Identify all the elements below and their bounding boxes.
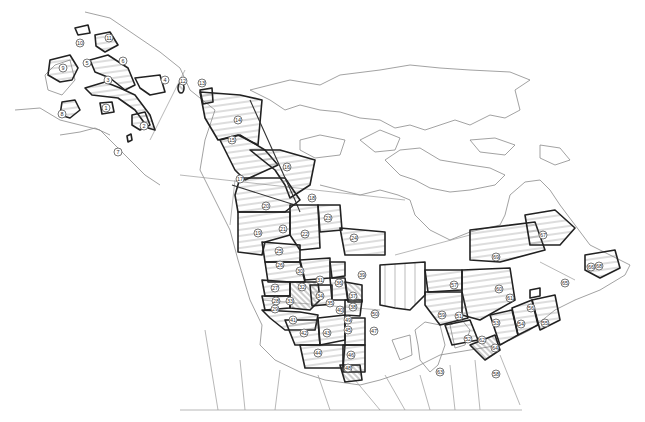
label-66: 66 [587, 263, 595, 271]
label-49: 49 [344, 316, 352, 324]
label-45: 45 [344, 326, 352, 334]
label-34: 34 [316, 292, 324, 300]
label-29: 29 [271, 305, 279, 313]
svg-text:34: 34 [317, 293, 323, 299]
svg-text:27: 27 [272, 285, 278, 291]
label-57: 57 [450, 281, 458, 289]
label-16: 16 [283, 163, 291, 171]
label-58: 58 [492, 370, 500, 378]
svg-text:39: 39 [359, 272, 365, 278]
svg-text:28: 28 [273, 298, 279, 304]
label-18: 18 [308, 194, 316, 202]
svg-text:53: 53 [493, 320, 499, 326]
label-7: 7 [114, 148, 122, 156]
label-38: 38 [349, 303, 357, 311]
label-67: 67 [539, 231, 547, 239]
svg-text:57: 57 [451, 282, 457, 288]
label-14: 14 [234, 116, 242, 124]
label-17: 17 [236, 175, 244, 183]
svg-text:38: 38 [350, 304, 356, 310]
label-40: 40 [336, 306, 344, 314]
svg-text:68: 68 [596, 263, 602, 269]
label-35: 35 [326, 299, 334, 307]
label-56: 56 [527, 304, 535, 312]
label-46: 46 [347, 351, 355, 359]
svg-text:18: 18 [309, 195, 315, 201]
svg-text:7: 7 [116, 149, 119, 155]
svg-text:9: 9 [61, 65, 64, 71]
label-1: 1 [102, 104, 110, 112]
label-24: 24 [350, 234, 358, 242]
svg-text:22: 22 [302, 231, 308, 237]
svg-text:64: 64 [492, 345, 498, 351]
svg-text:25: 25 [276, 248, 282, 254]
label-52: 52 [464, 335, 472, 343]
svg-text:11: 11 [106, 35, 112, 41]
label-62: 62 [478, 336, 486, 344]
svg-text:13: 13 [199, 80, 205, 86]
svg-text:60: 60 [496, 286, 502, 292]
svg-text:67: 67 [540, 232, 546, 238]
label-28: 28 [272, 297, 280, 305]
label-53: 53 [492, 319, 500, 327]
label-50: 50 [371, 310, 379, 318]
label-10: 10 [76, 39, 84, 47]
label-37: 37 [349, 292, 357, 300]
svg-text:16: 16 [284, 164, 290, 170]
label-15: 15 [228, 136, 236, 144]
svg-text:12: 12 [180, 78, 186, 84]
label-55: 55 [541, 319, 549, 327]
svg-text:10: 10 [77, 40, 83, 46]
svg-text:42: 42 [301, 330, 307, 336]
svg-text:23: 23 [325, 215, 331, 221]
svg-text:30: 30 [297, 268, 303, 274]
svg-text:3: 3 [106, 77, 109, 83]
svg-text:35: 35 [327, 300, 333, 306]
label-36: 36 [335, 279, 343, 287]
svg-text:40: 40 [337, 307, 343, 313]
svg-text:15: 15 [229, 137, 235, 143]
svg-text:54: 54 [518, 321, 524, 327]
label-2: 2 [140, 122, 148, 130]
label-65: 65 [561, 279, 569, 287]
svg-text:55: 55 [542, 320, 548, 326]
label-69: 69 [492, 253, 500, 261]
label-4: 4 [161, 76, 169, 84]
label-21: 21 [279, 225, 287, 233]
western-canada-strata [200, 88, 385, 382]
svg-text:14: 14 [235, 117, 241, 123]
label-32: 32 [298, 283, 306, 291]
svg-text:52: 52 [465, 336, 471, 342]
svg-text:31: 31 [317, 277, 323, 283]
label-48: 48 [344, 364, 352, 372]
label-63: 63 [436, 368, 444, 376]
svg-text:19: 19 [255, 230, 261, 236]
svg-text:59: 59 [439, 312, 445, 318]
svg-text:2: 2 [142, 123, 145, 129]
label-64: 64 [491, 344, 499, 352]
label-39: 39 [358, 271, 366, 279]
svg-text:21: 21 [280, 226, 286, 232]
label-41: 41 [289, 316, 297, 324]
label-19: 19 [254, 229, 262, 237]
label-11: 11 [105, 34, 113, 42]
label-60: 60 [495, 285, 503, 293]
svg-text:24: 24 [351, 235, 357, 241]
label-47: 47 [370, 327, 378, 335]
label-6: 6 [119, 57, 127, 65]
label-20: 20 [262, 202, 270, 210]
svg-text:29: 29 [272, 306, 278, 312]
label-26: 26 [276, 261, 284, 269]
label-31: 31 [316, 276, 324, 284]
label-5: 5 [83, 59, 91, 67]
label-9: 9 [59, 64, 67, 72]
label-8: 8 [58, 110, 66, 118]
svg-text:41: 41 [290, 317, 296, 323]
svg-text:63: 63 [437, 369, 443, 375]
label-42: 42 [300, 329, 308, 337]
svg-text:65: 65 [562, 280, 568, 286]
svg-text:4: 4 [163, 77, 166, 83]
svg-text:26: 26 [277, 262, 283, 268]
label-23: 23 [324, 214, 332, 222]
label-51: 51 [455, 312, 463, 320]
